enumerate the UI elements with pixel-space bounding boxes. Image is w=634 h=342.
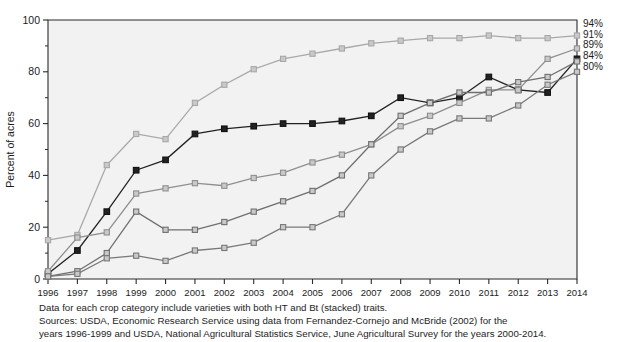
data-point-marker xyxy=(133,167,139,173)
data-point-marker xyxy=(339,46,344,51)
data-point-marker xyxy=(251,123,257,129)
data-point-marker xyxy=(427,100,432,105)
xtick-label: 2013 xyxy=(537,287,558,298)
y-axis-title-text: Percent of acres xyxy=(4,111,16,187)
data-point-marker xyxy=(545,56,550,61)
line-chart: 020406080100 199619971998199920002001200… xyxy=(0,0,634,300)
data-point-marker xyxy=(486,33,491,38)
xtick-label: 2012 xyxy=(508,287,529,298)
xtick-label: 2006 xyxy=(331,287,352,298)
data-point-marker xyxy=(398,147,403,152)
data-point-marker xyxy=(281,225,286,230)
xtick-label: 2005 xyxy=(302,287,323,298)
data-point-marker xyxy=(369,41,374,46)
data-point-marker xyxy=(251,67,256,72)
chart-caption: Data for each crop category include vari… xyxy=(39,301,629,341)
data-point-marker xyxy=(339,173,344,178)
ytick-label: 40 xyxy=(28,169,40,181)
data-point-marker xyxy=(222,183,227,188)
data-point-marker xyxy=(134,191,139,196)
data-point-marker xyxy=(281,170,286,175)
data-point-marker xyxy=(486,116,491,121)
figure-container: 020406080100 199619971998199920002001200… xyxy=(0,0,634,342)
data-point-marker xyxy=(574,59,579,64)
data-point-marker xyxy=(163,137,168,142)
data-point-marker xyxy=(369,142,374,147)
data-point-marker xyxy=(281,56,286,61)
xtick-label: 2010 xyxy=(449,287,470,298)
data-point-marker xyxy=(427,36,432,41)
data-point-marker xyxy=(398,124,403,129)
data-point-marker xyxy=(75,248,81,254)
end-label-3: 89% xyxy=(583,39,603,50)
data-point-marker xyxy=(163,157,169,163)
data-point-marker xyxy=(486,74,492,80)
data-point-marker xyxy=(574,46,579,51)
data-point-marker xyxy=(310,160,315,165)
data-point-marker xyxy=(457,116,462,121)
data-point-marker xyxy=(398,38,403,43)
xtick-label: 2001 xyxy=(184,287,205,298)
xtick-label: 1997 xyxy=(67,287,88,298)
data-point-marker xyxy=(45,274,50,279)
data-point-marker xyxy=(134,253,139,258)
end-label-1: 94% xyxy=(583,18,603,29)
data-point-marker xyxy=(457,95,463,101)
data-point-marker xyxy=(251,240,256,245)
data-point-marker xyxy=(545,90,551,96)
data-point-marker xyxy=(192,131,198,137)
data-point-marker xyxy=(251,209,256,214)
data-point-marker xyxy=(104,162,109,167)
data-point-marker xyxy=(574,69,579,74)
data-point-marker xyxy=(104,251,109,256)
ytick-label: 100 xyxy=(22,14,40,26)
series-end-labels: 94%91%89%84%80% xyxy=(583,18,603,72)
data-point-marker xyxy=(251,175,256,180)
data-point-marker xyxy=(192,100,197,105)
data-point-marker xyxy=(104,209,110,215)
xtick-label: 2003 xyxy=(243,287,264,298)
data-point-marker xyxy=(310,188,315,193)
data-point-marker xyxy=(427,113,432,118)
data-point-marker xyxy=(134,209,139,214)
xtick-label: 2007 xyxy=(361,287,382,298)
data-point-marker xyxy=(516,80,521,85)
data-point-marker xyxy=(104,230,109,235)
data-point-marker xyxy=(163,186,168,191)
data-point-marker xyxy=(104,256,109,261)
end-label-4: 84% xyxy=(583,50,603,61)
data-point-marker xyxy=(398,95,404,101)
data-point-marker xyxy=(545,36,550,41)
data-point-marker xyxy=(75,271,80,276)
data-point-marker xyxy=(369,173,374,178)
ytick-label: 20 xyxy=(28,221,40,233)
plot-background xyxy=(48,20,577,279)
y-tick-labels: 020406080100 xyxy=(22,14,40,285)
data-point-marker xyxy=(134,131,139,136)
xtick-label: 2002 xyxy=(214,287,235,298)
data-point-marker xyxy=(222,126,228,132)
data-point-marker xyxy=(45,238,50,243)
data-point-marker xyxy=(516,103,521,108)
xtick-label: 2014 xyxy=(566,287,587,298)
data-point-marker xyxy=(457,36,462,41)
ytick-label: 80 xyxy=(28,65,40,77)
data-point-marker xyxy=(516,87,521,92)
xtick-label: 2008 xyxy=(390,287,411,298)
xtick-label: 1998 xyxy=(96,287,117,298)
data-point-marker xyxy=(222,245,227,250)
data-point-marker xyxy=(339,118,345,124)
data-point-marker xyxy=(192,248,197,253)
data-point-marker xyxy=(192,181,197,186)
data-point-marker xyxy=(339,212,344,217)
xtick-label: 2004 xyxy=(273,287,294,298)
data-point-marker xyxy=(339,152,344,157)
xtick-label: 2011 xyxy=(479,287,499,298)
caption-line-3: years 1996-1999 and USDA, National Agric… xyxy=(39,327,629,340)
data-point-marker xyxy=(281,199,286,204)
data-point-marker xyxy=(427,129,432,134)
data-point-marker xyxy=(280,121,286,127)
data-point-marker xyxy=(222,82,227,87)
data-point-marker xyxy=(574,33,579,38)
caption-line-1: Data for each crop category include vari… xyxy=(39,301,629,314)
